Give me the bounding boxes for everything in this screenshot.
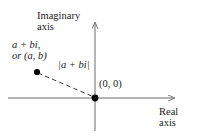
modulus-label: |a + bi| [58, 59, 90, 70]
complex-point-label: a + bi, or (a, b) [12, 39, 47, 61]
complex-point-dot [34, 69, 40, 75]
origin-point-dot [92, 95, 99, 102]
modulus-segment [38, 73, 94, 97]
origin-label: (0, 0) [99, 78, 122, 89]
real-axis-label: Real axis [159, 106, 178, 128]
real-axis-label-line2: axis [159, 117, 178, 128]
complex-plane-figure: Imaginary axis Real axis a + bi, or (a, … [0, 0, 198, 139]
imaginary-axis-label-line1: Imaginary [37, 10, 80, 21]
complex-point-label-line1: a + bi, [12, 39, 40, 50]
complex-point-label-line2: or (a, b) [12, 50, 47, 61]
imaginary-axis-label-line2: axis [37, 21, 80, 32]
imaginary-axis-label: Imaginary axis [37, 10, 80, 32]
real-axis-label-line1: Real [159, 106, 178, 117]
